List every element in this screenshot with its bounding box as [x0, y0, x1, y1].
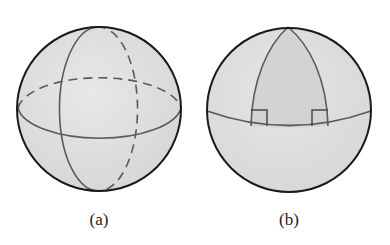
sphere-b — [207, 27, 371, 192]
spherical-geometry-figure: (a) (b) — [0, 0, 390, 245]
sphere-a — [17, 27, 181, 191]
caption-a: (a) — [79, 210, 119, 230]
figure-canvas — [0, 0, 390, 245]
caption-b: (b) — [269, 210, 309, 230]
